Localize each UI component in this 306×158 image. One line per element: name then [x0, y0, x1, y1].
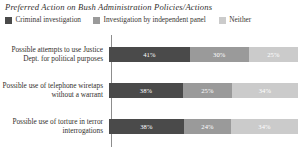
- chart-legend: Criminal investigation Investigation by …: [5, 16, 305, 24]
- category-label: Possible use of telephone wiretaps witho…: [0, 81, 107, 99]
- bar-segment-neither: 34%: [231, 119, 298, 134]
- stacked-bar: 38% 24% 34%: [109, 119, 298, 134]
- bar-segment-criminal-investigation: 38%: [109, 83, 183, 98]
- chart-row: Possible use of telephone wiretaps witho…: [0, 75, 306, 105]
- category-label: Possible use of torture in terror interr…: [0, 117, 107, 135]
- bar-segment-independent-panel: 24%: [184, 119, 231, 134]
- bar-segment-criminal-investigation: 38%: [109, 119, 184, 134]
- bar-segment-value: 38%: [140, 87, 152, 94]
- stacked-bar: 41% 30% 25%: [109, 47, 298, 62]
- legend-swatch-icon: [5, 17, 12, 24]
- plot-area: Possible attempts to use Justice Dept. f…: [0, 33, 306, 151]
- legend-swatch-icon: [93, 17, 100, 24]
- bar-segment-value: 34%: [259, 87, 271, 94]
- bar-segment-value: 38%: [140, 123, 152, 130]
- bar-segment-value: 30%: [213, 51, 225, 58]
- legend-item-neither: Neither: [219, 16, 251, 24]
- bar-segment-value: 24%: [201, 123, 213, 130]
- legend-item-criminal-investigation: Criminal investigation: [5, 16, 81, 24]
- bar-segment-criminal-investigation: 41%: [109, 47, 190, 62]
- bar-segment-neither: 34%: [232, 83, 298, 98]
- legend-item-label: Criminal investigation: [16, 16, 81, 24]
- bar-segment-value: 34%: [258, 123, 270, 130]
- chart-row: Possible attempts to use Justice Dept. f…: [0, 39, 306, 69]
- bar-segment-independent-panel: 25%: [183, 83, 232, 98]
- bar-segment-neither: 25%: [249, 47, 298, 62]
- legend-item-label: Investigation by independent panel: [103, 16, 205, 24]
- bar-segment-value: 25%: [267, 51, 279, 58]
- bar-segment-value: 41%: [143, 51, 155, 58]
- stacked-bar-chart: Preferred Action on Bush Administration …: [0, 0, 306, 158]
- bar-segment-value: 25%: [201, 87, 213, 94]
- category-label: Possible attempts to use Justice Dept. f…: [0, 45, 107, 63]
- chart-title: Preferred Action on Bush Administration …: [5, 2, 212, 12]
- legend-swatch-icon: [219, 17, 226, 24]
- chart-row: Possible use of torture in terror interr…: [0, 111, 306, 141]
- legend-item-label: Neither: [229, 16, 251, 24]
- legend-item-independent-panel: Investigation by independent panel: [93, 16, 206, 24]
- bar-segment-independent-panel: 30%: [190, 47, 249, 62]
- stacked-bar: 38% 25% 34%: [109, 83, 298, 98]
